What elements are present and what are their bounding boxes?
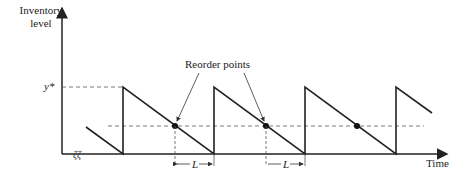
inventory-sawtooth bbox=[86, 87, 432, 154]
axis-break-icon: ζζ bbox=[73, 149, 82, 161]
reorder-point-3 bbox=[354, 123, 360, 129]
inventory-diagram: ζζ bbox=[0, 0, 469, 178]
